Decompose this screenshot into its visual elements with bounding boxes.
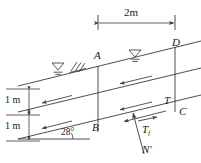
slope-angle-label: 28° [61,128,74,138]
force-label-tf-subscript: f [148,129,150,136]
seepage-flow-arrow [120,76,152,84]
mid-layer-line [18,68,201,112]
dimension-1m-lower-label: 1 m [5,121,20,131]
seepage-flow-arrows [42,76,166,129]
dimension-2m-label: 2m [124,7,138,18]
point-label-c: C [179,106,186,117]
seepage-flow-arrow [120,102,152,110]
seepage-flow-arrow [42,96,72,104]
base-line [18,95,201,139]
ground-hatching [70,62,87,73]
dimension-1m-upper-label: 1 m [5,95,20,105]
point-label-b: B [92,122,99,133]
force-label-t: T [164,95,170,106]
point-label-a: A [94,50,101,61]
water-table-symbol-left [52,63,64,74]
slope-geometry [18,41,201,139]
force-label-n-prime: N' [142,144,152,155]
water-table-symbol-right [129,50,141,61]
figure-canvas: 2m 1 m 1 m 28° A B C D T Tf N' [0,0,201,163]
diagram-svg [0,0,201,163]
force-label-tf: Tf [142,124,150,137]
point-label-d: D [172,37,180,48]
